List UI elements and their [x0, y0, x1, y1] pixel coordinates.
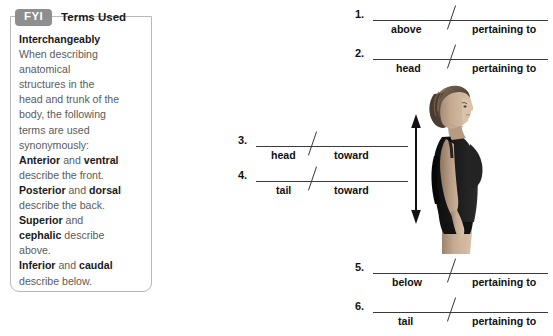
fyi-term-ventral: ventral	[84, 154, 119, 166]
fyi-term-desc: describe the front.	[19, 168, 145, 183]
anatomy-figure	[404, 82, 496, 254]
fyi-line-0: Interchangeably	[19, 33, 100, 45]
cue-right: pertaining to	[472, 315, 536, 328]
fyi-line-6: terms are used	[19, 124, 90, 136]
cue-left: head	[396, 62, 421, 75]
fyi-conj: and	[60, 154, 84, 166]
fyi-line: head and trunk of the	[19, 92, 145, 107]
answer-blank-line[interactable]	[373, 20, 548, 21]
fyi-line: anatomical	[19, 62, 145, 77]
fyi-term-pair: Superior and	[19, 213, 145, 228]
fyi-callout-header: FYI Terms Used	[10, 8, 152, 27]
fyi-term-pair: Inferior and caudal	[19, 258, 145, 273]
fyi-line: terms are used	[19, 123, 145, 138]
fyi-callout-body: Interchangeably When describing anatomic…	[19, 32, 145, 289]
fyi-line-4: head and trunk of the	[19, 93, 119, 105]
cue-left: above	[391, 23, 422, 36]
fyi-term-posterior: Posterior	[19, 184, 66, 196]
separator-slash-icon	[447, 298, 456, 322]
separator-slash-icon	[308, 132, 317, 156]
fyi-line-5: body, the following	[19, 108, 106, 120]
fyi-title: Terms Used	[61, 12, 126, 24]
cue-left: tail	[398, 315, 413, 328]
fyi-line: When describing	[19, 47, 145, 62]
answer-blank-line[interactable]	[373, 59, 548, 60]
fyi-conj: and	[63, 214, 84, 226]
fyi-term-cephalic: cephalic	[19, 229, 61, 241]
fyi-term-pair: Posterior and dorsal	[19, 183, 145, 198]
fyi-term-caudal: caudal	[79, 259, 113, 271]
fyi-line-3: structures in the	[19, 78, 94, 90]
fyi-term-dorsal: dorsal	[89, 184, 121, 196]
answer-blank-line[interactable]	[373, 312, 548, 313]
item-number: 3.	[238, 134, 247, 147]
fyi-intro-line: Interchangeably	[19, 32, 145, 47]
separator-slash-icon	[447, 45, 456, 69]
item-number: 2.	[355, 47, 364, 60]
fyi-line-1: When describing	[19, 48, 98, 60]
separator-slash-icon	[308, 167, 317, 191]
separator-slash-icon	[447, 259, 456, 283]
cue-right: pertaining to	[472, 276, 536, 289]
fyi-term-anterior: Anterior	[19, 154, 60, 166]
fyi-term-pair: cephalic describe	[19, 228, 145, 243]
fyi-line: body, the following	[19, 107, 145, 122]
fyi-term-desc: describe the back.	[19, 198, 145, 213]
fyi-badge: FYI	[15, 9, 52, 26]
item-number: 6.	[355, 300, 364, 313]
answer-blank-line[interactable]	[256, 146, 408, 147]
answer-blank-line[interactable]	[373, 273, 548, 274]
item-number: 4.	[238, 169, 247, 182]
answer-blank-line[interactable]	[256, 181, 408, 182]
fyi-term-pair: Anterior and ventral	[19, 153, 145, 168]
fyi-term-desc: describe below.	[19, 274, 145, 289]
fyi-desc-above-a: describe	[64, 229, 104, 241]
cue-left: tail	[276, 184, 291, 197]
item-number: 5.	[355, 261, 364, 274]
cue-left: head	[271, 149, 296, 162]
cue-right: pertaining to	[472, 62, 536, 75]
fyi-conj: and	[56, 259, 80, 271]
fyi-desc-back: describe the back.	[19, 199, 105, 211]
fyi-desc-below: describe below.	[19, 275, 92, 287]
cue-right: pertaining to	[472, 23, 536, 36]
cue-right: toward	[334, 184, 369, 197]
vertical-double-headed-arrow-icon	[404, 82, 496, 254]
fyi-term-inferior: Inferior	[19, 259, 56, 271]
fyi-desc-front: describe the front.	[19, 169, 104, 181]
fyi-term-superior: Superior	[19, 214, 63, 226]
fyi-line-2: anatomical	[19, 63, 70, 75]
fyi-desc-above-b: above.	[19, 244, 51, 256]
fyi-line: synonymously:	[19, 138, 145, 153]
separator-slash-icon	[447, 6, 456, 30]
item-number: 1.	[355, 8, 364, 21]
fyi-term-desc: above.	[19, 243, 145, 258]
cue-left: below	[392, 276, 422, 289]
fyi-conj: and	[66, 184, 90, 196]
cue-right: toward	[334, 149, 369, 162]
fyi-line-7: synonymously:	[19, 139, 89, 151]
fyi-line: structures in the	[19, 77, 145, 92]
